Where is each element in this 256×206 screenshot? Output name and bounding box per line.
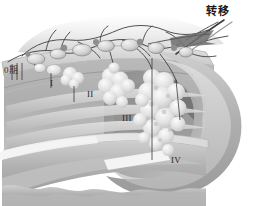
label-stage-1: I bbox=[50, 79, 53, 88]
illustration-svg bbox=[0, 0, 256, 206]
label-stage-3: III bbox=[122, 114, 132, 123]
label-metastasis: 转移 bbox=[206, 6, 230, 17]
figure-canvas: 0期 I II III IV 转移 bbox=[0, 0, 256, 206]
label-stage-0: 0期 bbox=[4, 66, 18, 75]
label-stage-2: II bbox=[87, 90, 94, 99]
label-stage-4: IV bbox=[171, 156, 181, 165]
serosa-layer bbox=[0, 133, 208, 206]
